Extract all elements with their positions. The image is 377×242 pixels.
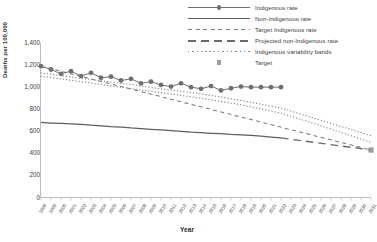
data-point-indigenous-rate (179, 81, 184, 86)
data-point-indigenous-rate (69, 69, 74, 74)
data-point-indigenous-rate (219, 88, 224, 93)
data-point-indigenous-rate (159, 83, 164, 88)
data-point-indigenous-rate (119, 78, 124, 83)
data-point-indigenous-rate (239, 84, 244, 89)
x-axis-title: Year (0, 226, 374, 233)
data-point-indigenous-rate (169, 84, 174, 89)
chart-series-layer (39, 64, 374, 153)
data-point-indigenous-rate (199, 86, 204, 91)
data-point-indigenous-rate (229, 86, 234, 91)
data-point-indigenous-rate (149, 79, 154, 84)
data-point-indigenous-rate (259, 85, 264, 90)
data-point-indigenous-rate (139, 81, 144, 86)
data-point-indigenous-rate (279, 85, 284, 90)
series-non-indigenous-rate (41, 122, 281, 137)
data-point-indigenous-rate (129, 76, 134, 81)
chart-axes (41, 43, 372, 201)
data-point-indigenous-rate (189, 85, 194, 90)
data-point-indigenous-rate (89, 70, 94, 75)
data-point-indigenous-rate (209, 84, 214, 89)
series-projected-non-indigenous-rate (281, 138, 371, 150)
data-point-indigenous-rate (269, 85, 274, 90)
data-point-target (368, 147, 373, 152)
data-point-indigenous-rate (99, 75, 104, 80)
series-target-indigenous-rate (41, 66, 371, 150)
data-point-indigenous-rate (109, 74, 114, 79)
data-point-indigenous-rate (249, 85, 254, 90)
